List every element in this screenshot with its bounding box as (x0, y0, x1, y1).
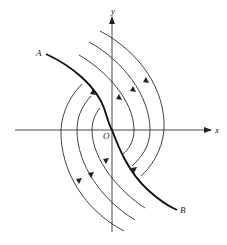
arrow-icon (88, 172, 94, 178)
point-a-label: A (35, 48, 42, 58)
trajectory-left-3 (92, 108, 145, 208)
x-axis-label: x (214, 125, 219, 135)
arrow-icon (116, 94, 122, 100)
trajectory-right-1 (100, 31, 164, 176)
phase-portrait-diagram: y x O A B (0, 0, 227, 245)
trajectory-left-1 (61, 84, 124, 231)
arrow-icon (76, 178, 82, 184)
point-b-label: B (180, 205, 186, 215)
arrow-icon (103, 158, 109, 164)
origin-label: O (103, 131, 110, 141)
arrow-icon (130, 86, 136, 92)
y-axis-label: y (110, 6, 115, 16)
separatrix-curve (46, 54, 177, 210)
arrow-icon (143, 77, 149, 83)
